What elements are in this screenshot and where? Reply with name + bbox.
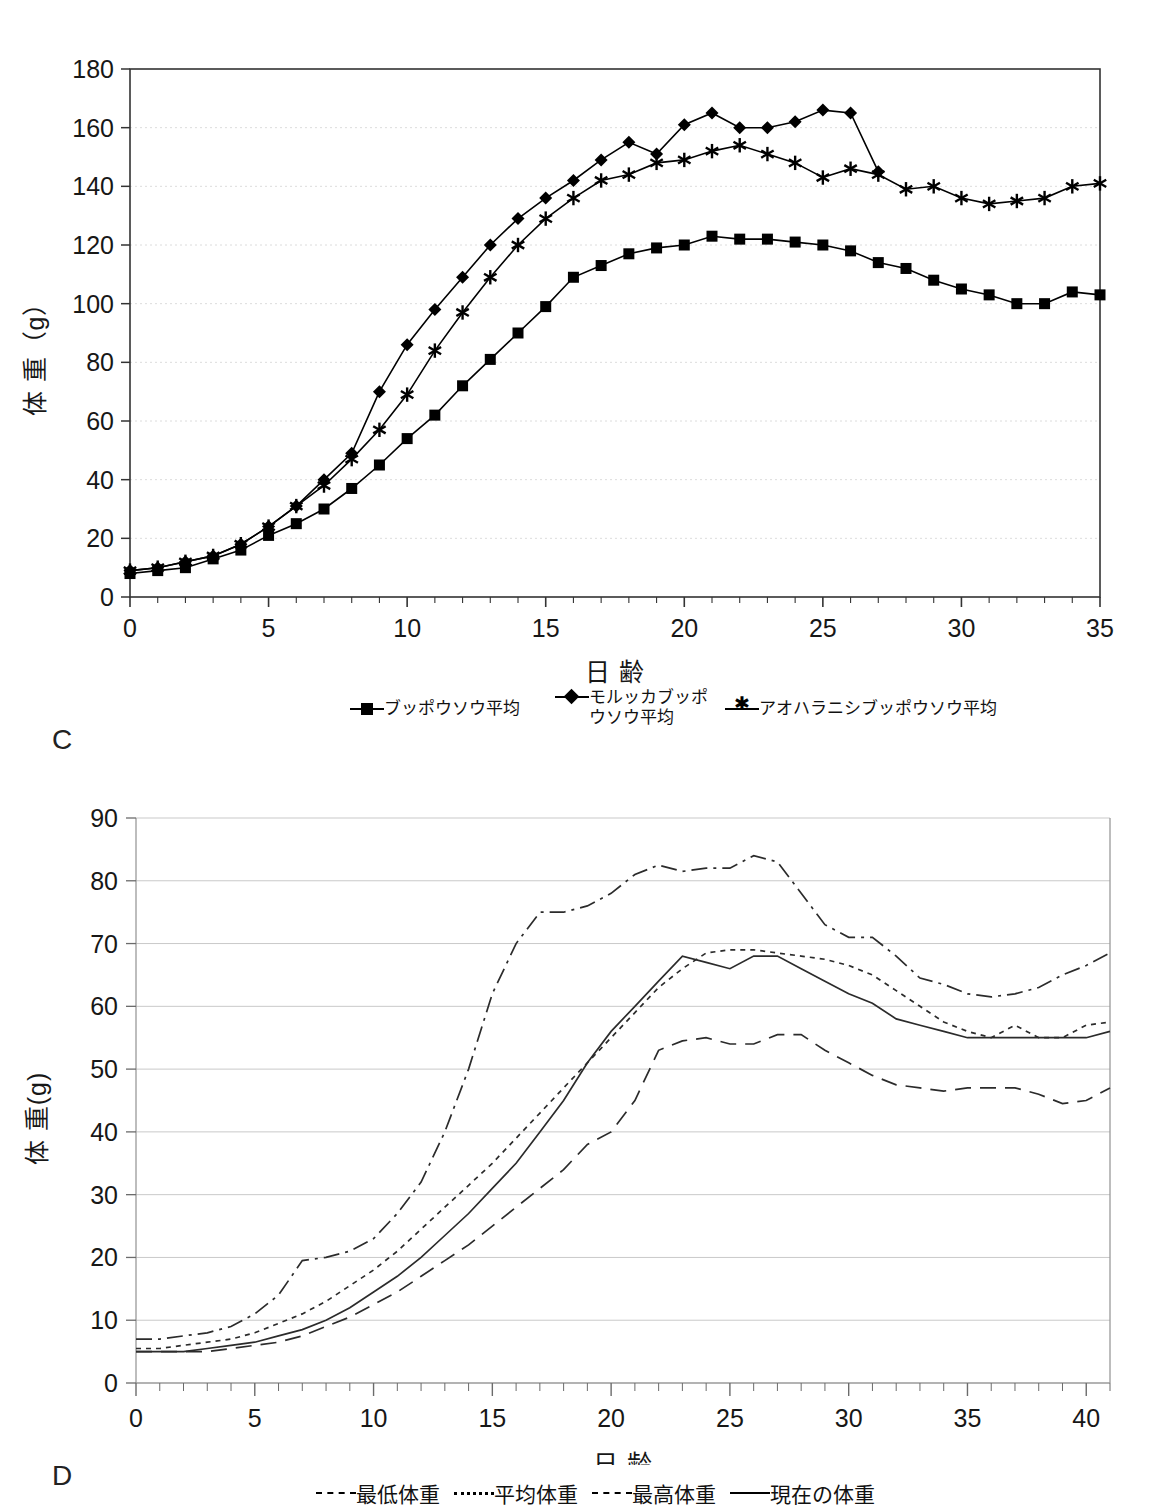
chart-c-series-0-marker	[319, 504, 330, 515]
dashed-line-icon	[316, 1486, 356, 1500]
chart-c-series-0-marker	[402, 433, 413, 444]
legend-item-molukka: モルッカブッポウソウ平均	[555, 688, 709, 727]
chart-d-series-0-line	[136, 1035, 1110, 1352]
chart-d-series-3-line	[136, 956, 1110, 1352]
legend-item-current-weight: 現在の体重	[730, 1478, 875, 1508]
panel-letter-d: D	[52, 1460, 72, 1492]
chart-d-ytick-6: 60	[90, 992, 118, 1020]
chart-c-series-0-marker	[596, 260, 607, 271]
chart-d-xtick-0: 0	[129, 1404, 143, 1432]
chart-c-series-1-marker	[761, 121, 774, 134]
chart-d-ytick-3: 30	[90, 1181, 118, 1209]
asterisk-marker-icon	[725, 703, 759, 715]
chart-c-series-0-marker	[623, 248, 634, 259]
chart-d-ytick-2: 20	[90, 1243, 118, 1271]
chart-c-xtick-5: 25	[809, 614, 837, 642]
legend-d-label-2: 最高体重	[632, 1483, 716, 1506]
chart-c-ylabel: 体 重（g）	[21, 290, 49, 417]
chart-c-series-0-line	[130, 236, 1100, 573]
chart-c-xtick-0: 0	[123, 614, 137, 642]
chart-c-series-1-marker	[706, 107, 719, 120]
solid-line-icon	[730, 1486, 770, 1500]
chart-c-series-2-marker	[844, 162, 856, 176]
chart-d-xtick-5: 25	[716, 1404, 744, 1432]
chart-c-series-0-marker	[513, 328, 524, 339]
chart-d-xtick-3: 15	[478, 1404, 506, 1432]
panel-letter-c: C	[52, 724, 72, 756]
chart-c-series-1-line	[130, 110, 878, 570]
chart-c-xtick-6: 30	[948, 614, 976, 642]
diamond-marker-icon	[555, 691, 589, 703]
chart-c-series-2-marker	[789, 156, 801, 170]
chart-c-series-0-marker	[873, 257, 884, 268]
chart-c-xlabel: 日 齢	[585, 658, 645, 686]
chart-d-ytick-5: 50	[90, 1055, 118, 1083]
chart-c-series-0-marker	[984, 289, 995, 300]
chart-c-series-1-marker	[733, 121, 746, 134]
chart-c-series-0-marker	[679, 240, 690, 251]
dash-dot-line-icon	[592, 1486, 632, 1500]
chart-c-panel: 05101520253035020406080100120140160180日 …	[0, 0, 1155, 765]
chart-c-legend: ブッポウソウ平均 モルッカブッポウソウ平均 アオハラニシブッポウソウ平均	[350, 686, 990, 744]
chart-d-panel: 05101520253035400102030405060708090日 齢体 …	[0, 765, 1155, 1503]
chart-c-series-2-line	[130, 145, 1100, 570]
chart-c-series-0-marker	[1067, 286, 1078, 297]
chart-c-series-0-marker	[540, 301, 551, 312]
legend-label-1: モルッカブッポウソウ平均	[589, 688, 709, 727]
chart-c-series-0-marker	[928, 275, 939, 286]
chart-d-ytick-9: 90	[90, 804, 118, 832]
chart-c-series-1-marker	[789, 115, 802, 128]
chart-c-series-2-marker	[706, 144, 718, 158]
chart-d-ytick-1: 10	[90, 1306, 118, 1334]
chart-c-series-1-marker	[539, 192, 552, 205]
chart-c-series-2-marker	[761, 147, 773, 161]
legend-item-avg-weight: 平均体重	[454, 1478, 578, 1508]
dotted-line-icon	[454, 1486, 494, 1500]
chart-d-xlabel: 日 齢	[593, 1450, 653, 1465]
legend-d-label-3: 現在の体重	[770, 1483, 875, 1506]
chart-c-series-2-marker	[623, 167, 635, 181]
chart-c-series-0-marker	[346, 483, 357, 494]
chart-c-series-0-marker	[707, 231, 718, 242]
chart-c-ytick-1: 20	[86, 524, 114, 552]
chart-d-xtick-8: 40	[1072, 1404, 1100, 1432]
chart-c-xtick-7: 35	[1086, 614, 1114, 642]
chart-c-series-2-marker	[567, 191, 579, 205]
legend-label-0: ブッポウソウ平均	[384, 699, 520, 719]
chart-c-series-0-marker	[568, 272, 579, 283]
chart-d-ytick-0: 0	[104, 1369, 118, 1397]
chart-c-ytick-8: 160	[72, 114, 114, 142]
chart-c-series-0-marker	[762, 234, 773, 245]
chart-c-series-2-marker	[955, 191, 967, 205]
chart-c-series-1-marker	[844, 107, 857, 120]
chart-c-series-2-marker	[595, 173, 607, 187]
chart-d-xtick-7: 35	[954, 1404, 982, 1432]
chart-c-series-0-marker	[1011, 298, 1022, 309]
chart-c-series-0-marker	[901, 263, 912, 274]
chart-c-ytick-5: 100	[72, 290, 114, 318]
legend-item-min-weight: 最低体重	[316, 1478, 440, 1508]
chart-c-series-0-marker	[956, 284, 967, 295]
chart-c-xtick-2: 10	[393, 614, 421, 642]
chart-c-xtick-3: 15	[532, 614, 560, 642]
chart-c-series-0-marker	[734, 234, 745, 245]
chart-c-series-1-marker	[595, 153, 608, 166]
chart-c-ytick-2: 40	[86, 466, 114, 494]
chart-c-ytick-6: 120	[72, 231, 114, 259]
chart-d-legend: 最低体重平均体重最高体重現在の体重	[316, 1478, 936, 1508]
chart-c-series-1-marker	[567, 174, 580, 187]
chart-c-series-0-marker	[485, 354, 496, 365]
legend-d-label-1: 平均体重	[494, 1483, 578, 1506]
chart-d-xtick-2: 10	[360, 1404, 388, 1432]
chart-c-series-2-marker	[817, 170, 829, 184]
legend-label-2: アオハラニシブッポウソウ平均	[759, 699, 997, 719]
chart-c-xtick-4: 20	[670, 614, 698, 642]
chart-c-xtick-1: 5	[262, 614, 276, 642]
chart-c-series-2-marker	[733, 138, 745, 152]
legend-d-label-0: 最低体重	[356, 1483, 440, 1506]
chart-c-series-0-marker	[429, 410, 440, 421]
chart-d-ytick-7: 70	[90, 930, 118, 958]
chart-c-series-0-marker	[1095, 289, 1106, 300]
chart-c-ytick-3: 60	[86, 407, 114, 435]
chart-d-ylabel: 体 重(g)	[23, 1072, 51, 1166]
